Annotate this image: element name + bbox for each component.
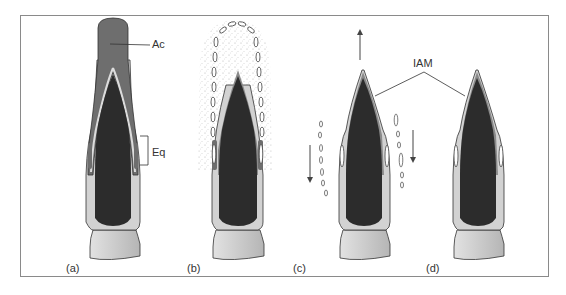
label-iam: IAM <box>413 57 433 69</box>
panel-b-sperm-head <box>198 20 272 260</box>
panel-label-d: (d) <box>426 262 439 274</box>
iam-leader-lines <box>375 72 465 96</box>
sperm-diagram <box>0 0 566 295</box>
panel-label-b: (b) <box>187 262 200 274</box>
label-equatorial-segment: Eq <box>152 146 165 158</box>
panel-c-sperm-head <box>310 32 413 260</box>
eq-bracket <box>140 136 148 165</box>
panel-label-a: (a) <box>66 262 79 274</box>
panel-d-sperm-head <box>453 70 504 260</box>
label-acrosome: Ac <box>152 38 165 50</box>
panel-label-c: (c) <box>293 262 306 274</box>
panel-a-sperm-head <box>86 18 140 260</box>
